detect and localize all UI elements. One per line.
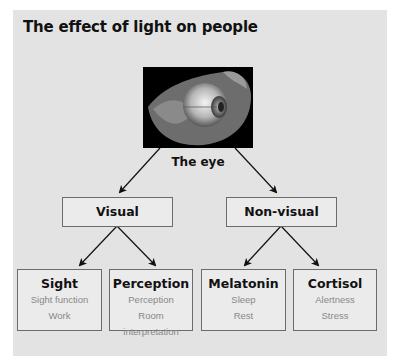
- node-sight-item: Work: [18, 308, 101, 324]
- node-visual-label: Visual: [96, 204, 139, 219]
- node-visual: Visual: [62, 197, 173, 227]
- node-melatonin-item: Rest: [202, 308, 285, 324]
- node-perception-item: Room interpretation: [110, 308, 192, 340]
- node-sight: Sight Sight function Work: [17, 269, 102, 331]
- node-perception-title: Perception: [110, 276, 192, 292]
- node-cortisol: Cortisol Alertness Stress: [293, 269, 377, 331]
- node-melatonin: Melatonin Sleep Rest: [201, 269, 286, 331]
- node-non-visual: Non-visual: [226, 197, 337, 227]
- node-cortisol-item: Alertness: [294, 292, 376, 308]
- node-perception: Perception Perception Room interpretatio…: [109, 269, 193, 331]
- node-sight-title: Sight: [18, 276, 101, 292]
- node-non-visual-label: Non-visual: [244, 204, 319, 219]
- node-sight-item: Sight function: [18, 292, 101, 308]
- node-cortisol-title: Cortisol: [294, 276, 376, 292]
- node-cortisol-item: Stress: [294, 308, 376, 324]
- node-perception-item: Perception: [110, 292, 192, 308]
- node-melatonin-item: Sleep: [202, 292, 285, 308]
- node-melatonin-title: Melatonin: [202, 276, 285, 292]
